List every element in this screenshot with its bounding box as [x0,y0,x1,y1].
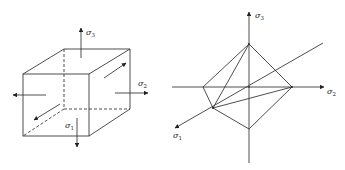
vertex-right [291,86,293,88]
label-sigma2-left: σ2 [138,79,147,89]
stress-space-labels: σ3 σ2 σ1 [173,11,336,141]
vertex-top [248,43,250,45]
vertex-front [212,107,214,109]
cube-right-face [89,49,130,136]
cube-element [23,49,130,136]
cube-hidden-edge-diagonal [23,109,64,136]
cube-top-face [23,49,130,74]
label-sigma1-left: σ1 [65,121,74,131]
sigma1-diagonal-arrow [34,104,60,120]
label-sigma3-right: σ3 [255,11,264,21]
label-sigma2-right: σ2 [327,87,336,97]
back-diagonal-arrow [104,63,126,78]
label-sigma3-left: σ3 [86,28,95,38]
origin-point [248,86,250,88]
label-sigma1-right: σ1 [173,131,182,141]
edge-front-right [213,87,292,108]
edge-top-front [213,44,249,108]
stress-space-axes [172,12,324,163]
cube-front-face [23,74,89,136]
cube-labels: σ3 σ2 σ1 [65,28,147,131]
stress-diagram: σ3 σ2 σ1 σ3 σ2 σ1 [0,0,345,170]
